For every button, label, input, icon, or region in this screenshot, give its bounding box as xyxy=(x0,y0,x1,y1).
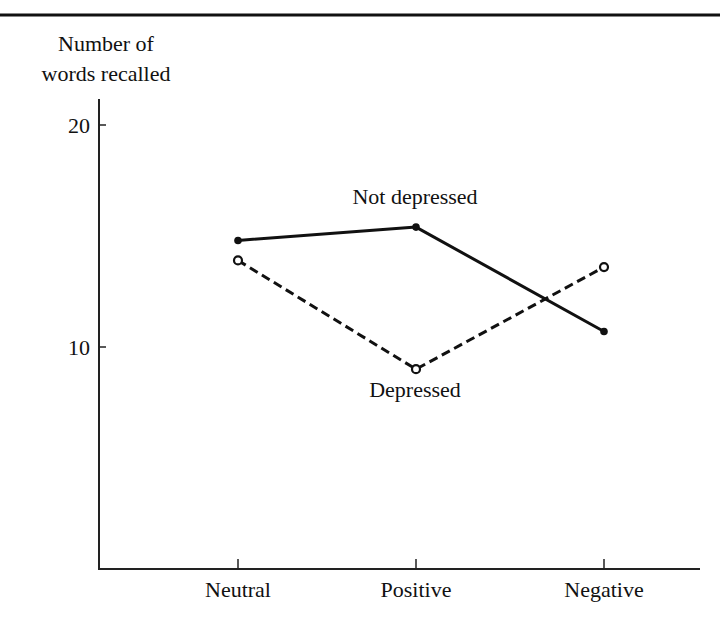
label-depressed: Depressed xyxy=(369,377,461,402)
y-ticks: 1020 xyxy=(68,113,106,360)
data-point xyxy=(412,223,420,231)
y-tick-label: 10 xyxy=(68,335,90,360)
data-point xyxy=(600,328,608,336)
data-point xyxy=(412,365,420,373)
x-ticks: NeutralPositiveNegative xyxy=(205,559,644,602)
label-not-depressed: Not depressed xyxy=(352,184,477,209)
series-line xyxy=(238,227,604,331)
y-tick-label: 20 xyxy=(68,113,90,138)
data-point xyxy=(234,256,242,264)
data-point xyxy=(600,263,608,271)
series-depressed xyxy=(234,256,608,373)
x-tick-label-negative: Negative xyxy=(564,577,643,602)
series-line xyxy=(238,260,604,369)
series-not-depressed xyxy=(234,223,608,335)
data-point xyxy=(234,237,242,245)
y-axis-label-line1: Number of xyxy=(58,31,155,56)
y-axis-label-line2: words recalled xyxy=(42,61,171,86)
x-tick-label-positive: Positive xyxy=(381,577,452,602)
line-chart: Number of words recalled 1020 NeutralPos… xyxy=(0,0,720,631)
x-tick-label-neutral: Neutral xyxy=(205,577,271,602)
